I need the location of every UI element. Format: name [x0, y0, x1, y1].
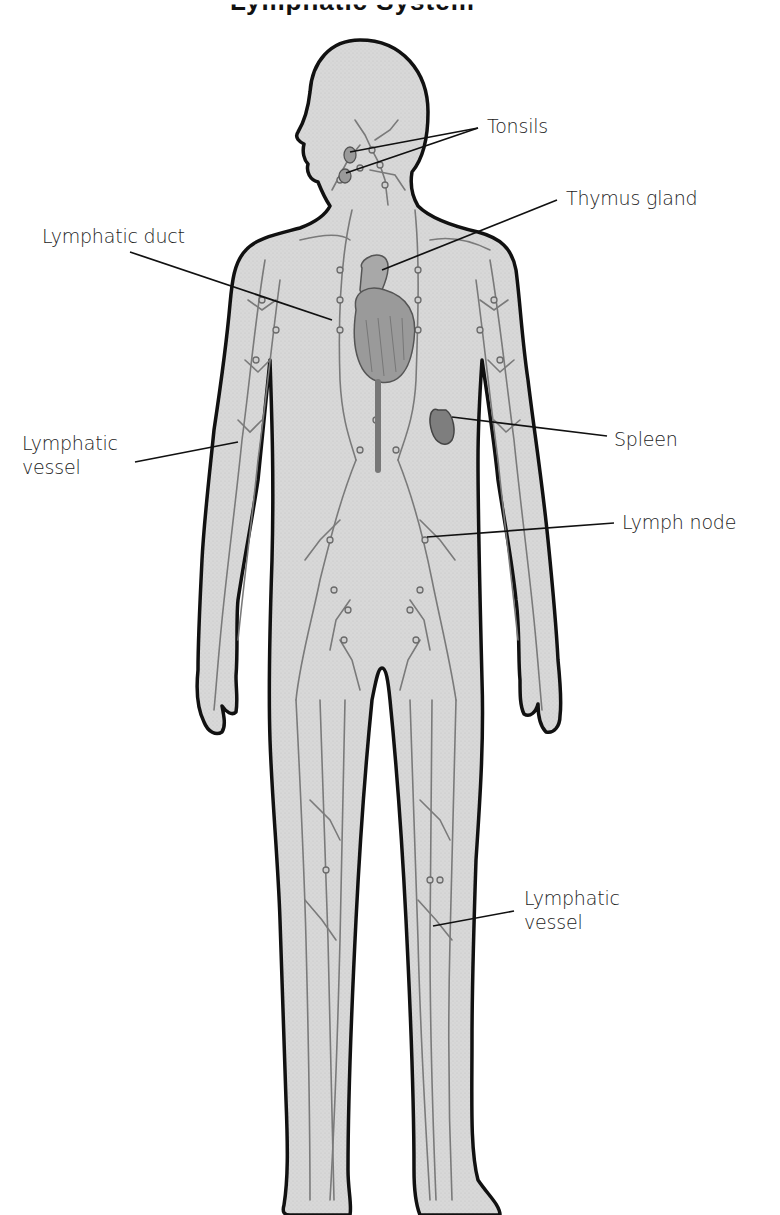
- label-spleen: Spleen: [614, 427, 678, 451]
- body-illustration: [0, 0, 780, 1215]
- lymphatic-system-diagram: Lymphatic System: [0, 0, 780, 1215]
- label-lymphatic-vessel-arm: Lymphatic vessel: [22, 431, 118, 479]
- label-lymphatic-vessel-leg: Lymphatic vessel: [524, 886, 620, 934]
- label-thymus-gland: Thymus gland: [566, 186, 697, 210]
- body-silhouette: [197, 40, 561, 1215]
- label-lymphatic-duct: Lymphatic duct: [42, 224, 185, 248]
- label-lymph-node: Lymph node: [622, 510, 736, 534]
- label-tonsils: Tonsils: [487, 114, 548, 138]
